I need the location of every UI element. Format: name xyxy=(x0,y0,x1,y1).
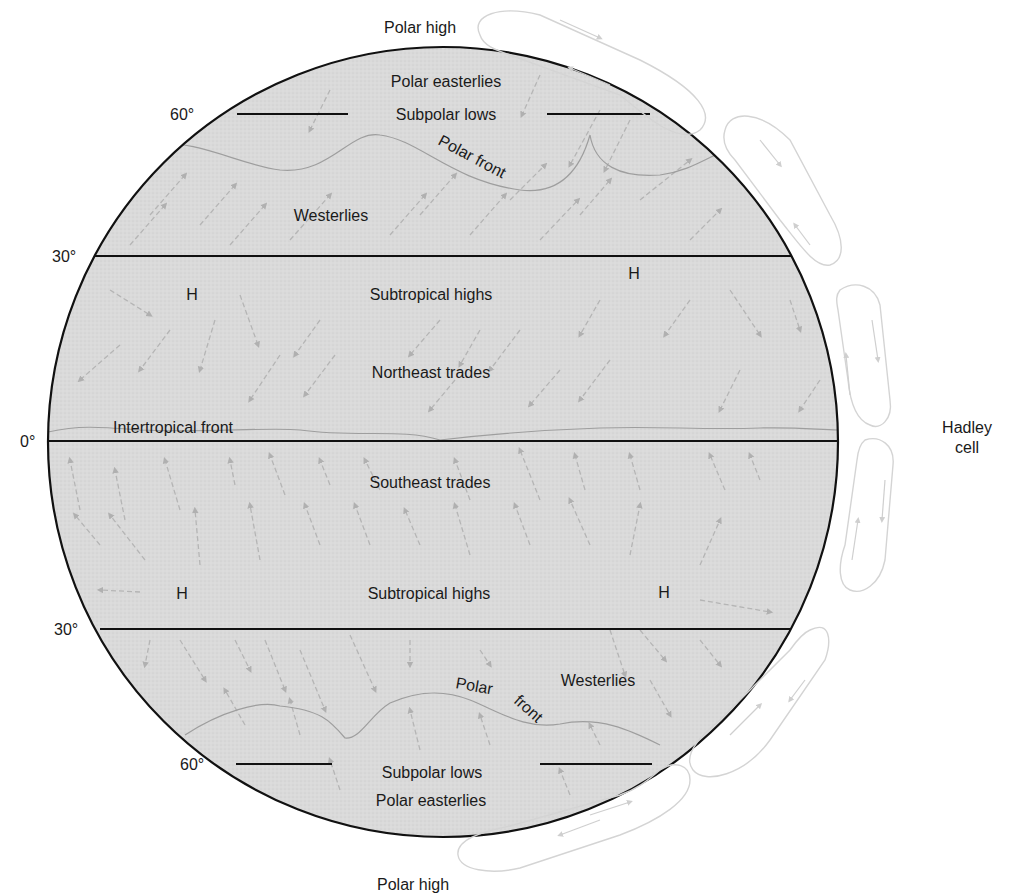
circulation-diagram: Polar high Polar high Hadley cell 60° 30… xyxy=(0,0,1009,896)
zone-n-high-left: H xyxy=(186,286,198,303)
latitude-label-equator: 0° xyxy=(20,433,35,450)
label-hadley-cell-2: cell xyxy=(955,439,979,456)
zone-n-subtropical-highs: Subtropical highs xyxy=(370,286,493,303)
zone-s-high-right: H xyxy=(658,584,670,601)
latitude-label-n60: 60° xyxy=(170,106,194,123)
zone-n-high-right: H xyxy=(628,265,640,282)
zone-s-high-left: H xyxy=(176,585,188,602)
zone-n-polar-easterlies: Polar easterlies xyxy=(391,73,501,90)
zone-s-polar-easterlies: Polar easterlies xyxy=(376,792,486,809)
zone-southeast-trades: Southeast trades xyxy=(370,474,491,491)
latitude-label-n30: 30° xyxy=(52,248,76,265)
zone-n-westerlies: Westerlies xyxy=(294,207,368,224)
label-hadley-cell-1: Hadley xyxy=(942,419,992,436)
latitude-label-s30: 30° xyxy=(54,621,78,638)
zone-northeast-trades: Northeast trades xyxy=(372,364,490,381)
latitude-label-s60: 60° xyxy=(180,756,204,773)
hadley-cell-north xyxy=(837,285,891,426)
zone-intertropical-front: Intertropical front xyxy=(113,419,234,436)
zone-n-subpolar-lows: Subpolar lows xyxy=(396,106,497,123)
zone-s-westerlies: Westerlies xyxy=(561,672,635,689)
label-polar-high-top: Polar high xyxy=(384,19,456,36)
label-polar-high-bottom: Polar high xyxy=(377,876,449,893)
zone-s-subpolar-lows: Subpolar lows xyxy=(382,764,483,781)
zone-s-subtropical-highs: Subtropical highs xyxy=(368,585,491,602)
hadley-cell-south xyxy=(840,439,893,592)
